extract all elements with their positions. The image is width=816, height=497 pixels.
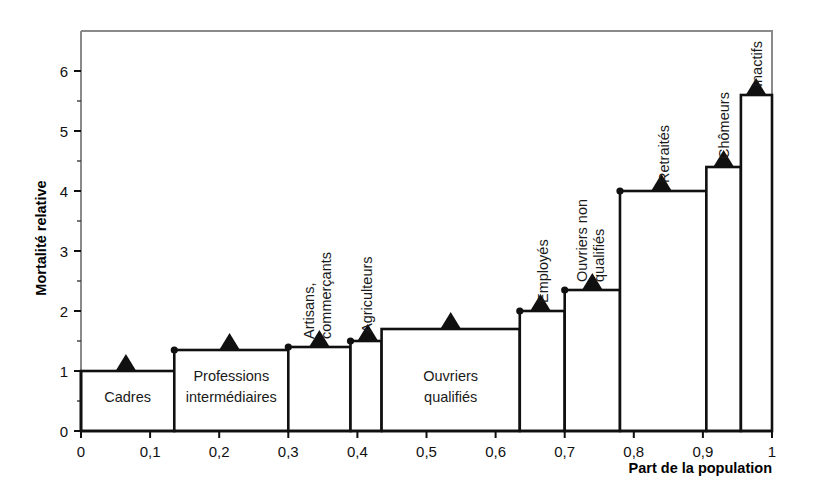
y-tick-label: 3 — [60, 243, 68, 260]
bar-label-line: Employés — [535, 239, 551, 303]
y-axis-title: Mortalité relative — [33, 180, 49, 295]
bar-6 — [565, 290, 620, 431]
bar-label-line: qualifiés — [591, 229, 607, 282]
bar-3 — [350, 341, 381, 431]
corner-dot-4 — [561, 286, 568, 293]
bar-label-8: Chômeurs — [716, 92, 732, 159]
corner-dot-1 — [285, 343, 292, 350]
bar-label-7: Retraités — [656, 125, 672, 183]
bar-label-line: Professions — [193, 368, 269, 384]
corner-dot-2 — [347, 337, 354, 344]
bar-label-line: Artisans, — [301, 283, 317, 339]
y-tick-label: 2 — [60, 303, 68, 320]
bar-label-line: commerçants — [318, 252, 334, 339]
mortality-population-step-chart: 0123456 00,10,20,30,40,50,60,70,80,91 Ca… — [0, 0, 816, 497]
y-tick-label: 0 — [60, 423, 68, 440]
x-tick-label: 0,6 — [485, 443, 506, 460]
bar-2 — [288, 347, 350, 431]
bar-label-line: Cadres — [104, 389, 151, 405]
bar-label-line: Ouvriers — [423, 368, 478, 384]
corner-dot-5 — [616, 187, 623, 194]
y-tick-label: 5 — [60, 123, 68, 140]
y-tick-label: 1 — [60, 363, 68, 380]
corner-dot-3 — [516, 307, 523, 314]
bar-label-line: intermédiaires — [186, 389, 277, 405]
x-tick-label: 0,4 — [347, 443, 368, 460]
bar-label-line: Ouvriers non — [574, 199, 590, 282]
y-tick-label: 4 — [60, 183, 68, 200]
corner-dot-0 — [171, 346, 178, 353]
bar-label-line: qualifiés — [424, 389, 477, 405]
x-tick-label: 0,7 — [554, 443, 575, 460]
x-tick-label: 0,5 — [416, 443, 437, 460]
y-tick-label: 6 — [60, 63, 68, 80]
chart-figure: 0123456 00,10,20,30,40,50,60,70,80,91 Ca… — [0, 0, 816, 497]
bar-8 — [706, 167, 741, 431]
bar-9 — [741, 95, 772, 431]
bar-label-5: Employés — [535, 239, 551, 303]
bar-label-line: Agriculteurs — [359, 256, 375, 333]
bar-label-line: Inactifs — [749, 41, 765, 87]
bar-7 — [620, 191, 706, 431]
bar-label-9: Inactifs — [749, 41, 765, 87]
x-tick-label: 0,1 — [140, 443, 161, 460]
bar-label-line: Retraités — [656, 125, 672, 183]
x-tick-label: 1 — [768, 443, 776, 460]
bar-label-line: Chômeurs — [716, 92, 732, 159]
x-tick-label: 0,3 — [278, 443, 299, 460]
x-tick-label: 0,9 — [692, 443, 713, 460]
x-axis-title: Part de la population — [629, 460, 772, 476]
bar-5 — [520, 311, 565, 431]
x-tick-label: 0,2 — [209, 443, 230, 460]
x-tick-label: 0 — [77, 443, 85, 460]
x-tick-label: 0,8 — [623, 443, 644, 460]
bar-label-0: Cadres — [104, 389, 151, 405]
bar-label-3: Agriculteurs — [359, 256, 375, 333]
